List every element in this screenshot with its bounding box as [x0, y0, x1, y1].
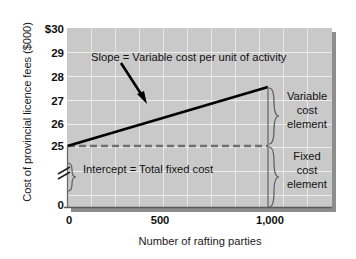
y-tick-label: 25 [2, 140, 64, 152]
fixed-cost-label-line1: Fixed [281, 150, 333, 164]
fixed-cost-brace-icon [269, 147, 279, 207]
y-tick-label: 27 [2, 95, 64, 107]
y-axis-ticks: $30 29 28 27 26 25 0 [0, 0, 64, 259]
y-tick-label: 26 [2, 118, 64, 130]
variable-cost-label-line3: element [281, 118, 333, 132]
intercept-annotation-text: Intercept = Total fixed cost [83, 163, 213, 175]
variable-cost-brace-icon [269, 88, 279, 144]
slope-annotation-text: Slope = Variable cost per unit of activi… [91, 51, 286, 63]
variable-cost-label-line2: cost [281, 104, 333, 118]
x-tick-label: 0 [66, 214, 72, 226]
y-tick-label: $30 [2, 23, 64, 35]
x-tick-label: 500 [151, 214, 170, 226]
slope-arrow-icon [121, 63, 147, 104]
fixed-cost-label-line2: cost [281, 164, 333, 178]
y-tick-label: 29 [2, 47, 64, 59]
variable-cost-label-line1: Variable [281, 90, 333, 104]
y-tick-label: 0 [2, 199, 64, 211]
y-tick-label: 28 [2, 71, 64, 83]
x-tick-label: 1,000 [256, 214, 284, 226]
x-axis-title: Number of rafting parties [60, 235, 340, 247]
cost-behaviour-chart: Cost of provincial licence fees ($000) $… [0, 0, 356, 259]
total-cost-line [68, 87, 269, 146]
fixed-cost-label-line3: element [281, 178, 333, 192]
